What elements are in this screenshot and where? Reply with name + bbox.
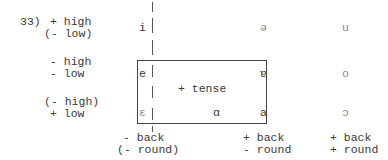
example-number: 33) xyxy=(20,15,41,28)
vowel-open-o: ɔ xyxy=(342,106,349,119)
row-2-feature-2: - low xyxy=(50,67,85,80)
vowel-i: i xyxy=(139,21,146,34)
vowel-turned-a: ɐ xyxy=(260,67,267,80)
dashed-divider xyxy=(152,2,153,12)
row-1-feature-2: (- low) xyxy=(44,27,92,40)
vowel-alpha: α xyxy=(213,106,220,119)
vowel-o: o xyxy=(342,67,349,80)
row-3-feature-2: + low xyxy=(50,107,85,120)
vowel-a: a xyxy=(260,106,267,119)
dashed-divider xyxy=(152,18,153,33)
col-2-feature-2: - round xyxy=(243,143,291,156)
dashed-divider xyxy=(152,40,153,55)
vowel-u: u xyxy=(342,21,349,34)
tense-label: + tense xyxy=(178,82,226,95)
col-1-feature-2: (- round) xyxy=(117,143,179,156)
col-3-feature-2: + round xyxy=(330,143,378,156)
vowel-schwa: ə xyxy=(260,21,267,34)
